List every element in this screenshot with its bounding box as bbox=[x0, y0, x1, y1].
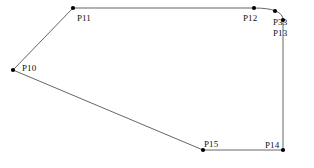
vertex-label-p14: P14 bbox=[265, 140, 279, 150]
vertex-label-p12: P12 bbox=[243, 13, 257, 23]
diagram-canvas: P10 P11 P12 P33 P13 P14 P15 bbox=[0, 0, 314, 168]
vertex-label-p15: P15 bbox=[204, 139, 218, 149]
vertex-label-p10: P10 bbox=[22, 63, 36, 73]
vertex-dot-p12[interactable] bbox=[252, 6, 256, 10]
vertex-label-p33: P33 bbox=[273, 17, 287, 27]
vertex-dot-p11[interactable] bbox=[71, 6, 75, 10]
vertex-label-p11: P11 bbox=[77, 13, 91, 23]
vertex-label-p13: P13 bbox=[273, 28, 287, 38]
vertex-dot-p33[interactable] bbox=[273, 9, 277, 13]
polygon-outline-path bbox=[13, 8, 283, 150]
vertex-dot-p10[interactable] bbox=[11, 68, 15, 72]
vertex-dot-p14[interactable] bbox=[281, 148, 285, 152]
